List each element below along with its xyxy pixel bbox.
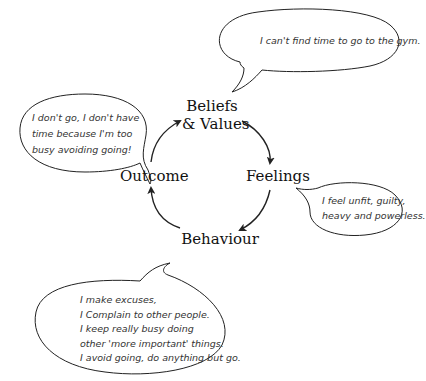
- bubble-line: I Complain to other people.: [80, 308, 241, 323]
- bubble-text-feelings: I feel unfit, guilty, heavy and powerles…: [322, 193, 426, 223]
- bubble-line: time because I'm too: [32, 126, 139, 142]
- bubble-line: I don't go, I don't have: [32, 110, 139, 126]
- node-behaviour: Behaviour: [180, 230, 260, 248]
- node-beliefs-line2: & Values: [182, 115, 242, 133]
- node-outcome: Outcome: [120, 167, 184, 185]
- bubble-line: I can't find time to go to the gym.: [260, 33, 420, 48]
- speech-bubble-beliefs: [219, 9, 399, 92]
- bubble-line: I avoid going, do anything but go.: [80, 351, 241, 366]
- bubble-text-outcome: I don't go, I don't have time because I'…: [32, 110, 139, 158]
- arrow-behaviour-to-outcome: [151, 188, 180, 228]
- bubble-line: heavy and powerless.: [322, 208, 426, 223]
- bubble-line: other 'more important' things.: [80, 337, 241, 352]
- bubble-text-beliefs: I can't find time to go to the gym.: [260, 33, 420, 48]
- node-feelings: Feelings: [246, 167, 306, 185]
- bubble-line: I feel unfit, guilty,: [322, 193, 426, 208]
- node-beliefs-values: Beliefs & Values: [182, 97, 242, 133]
- arrow-outcome-to-beliefs: [151, 121, 180, 162]
- arrow-feelings-to-behaviour: [240, 190, 270, 230]
- bubble-line: I keep really busy doing: [80, 322, 241, 337]
- node-beliefs-line1: Beliefs: [182, 97, 242, 115]
- bubble-line: busy avoiding going!: [32, 142, 139, 158]
- bubble-line: I make excuses,: [80, 293, 241, 308]
- bubble-text-behaviour: I make excuses, I Complain to other peop…: [80, 293, 241, 366]
